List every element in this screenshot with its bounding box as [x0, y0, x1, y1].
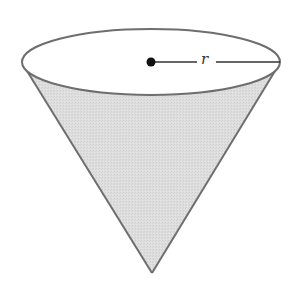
radius-label: r [201, 52, 208, 67]
cone-body [28, 72, 274, 273]
cone-diagram: r [0, 0, 296, 283]
cone-figure [0, 0, 296, 283]
center-dot [147, 58, 156, 67]
